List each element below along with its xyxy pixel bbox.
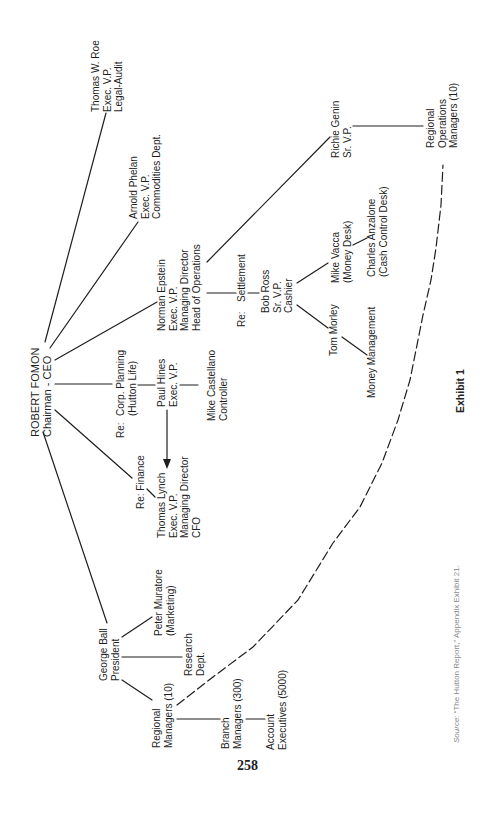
node-research-dept: Research Dept.	[183, 633, 206, 676]
node-name: Charles Anzalone	[366, 186, 378, 277]
node-mike-vacca: Mike Vacca (Money Desk)	[330, 221, 353, 283]
node-arnold-phelan: Arnold Phelan Exec. V.P. Commodities Dep…	[128, 134, 163, 219]
node-label: Re: Finance	[135, 455, 147, 509]
source-text: “The Hutton Report,” Appendix Exhibit 21…	[452, 565, 461, 715]
edge-ceo-epstein	[55, 302, 157, 360]
node-settlement: Settlement	[236, 254, 248, 302]
node-branch-managers: Branch Managers (300)	[220, 678, 243, 749]
node-account-executives: Account Executives (5000)	[265, 670, 288, 750]
edge-ross-vacca	[297, 263, 328, 283]
node-name: Operations	[437, 83, 449, 148]
node-paul-hines: Paul Hines Exec. V.P.	[156, 359, 179, 407]
node-name: Corp. Planning	[115, 350, 127, 416]
node-name: Regional	[151, 683, 163, 748]
node-name: George Ball	[98, 628, 110, 681]
node-thomas-lynch: Thomas Lynch Exec. V.P. Managing Directo…	[156, 456, 202, 538]
edge-ceo-ball	[43, 432, 107, 623]
node-dept: Head of Operations	[191, 244, 203, 331]
node-regional-operations-managers: Regional Operations Managers (10)	[425, 83, 460, 148]
node-count: Executives (5000)	[277, 670, 289, 750]
node-name: Thomas Lynch	[156, 456, 168, 538]
edge-morley-money-mgmt	[342, 337, 367, 355]
node-name: Mike Vacca	[330, 221, 342, 283]
node-count: Managers (300)	[232, 678, 244, 749]
node-charles-anzalone: Charles Anzalone (Cash Control Desk)	[366, 186, 389, 277]
node-prefix: Re:	[236, 311, 248, 327]
node-name: Paul Hines	[156, 359, 168, 407]
node-name: Dept.	[195, 633, 207, 676]
node-settlement-prefix: Re:	[236, 311, 248, 327]
node-dept: Commodities Dept.	[151, 134, 163, 219]
node-regional-managers: Regional Managers (10)	[151, 683, 174, 748]
node-corp-planning: Corp. Planning (Hutton Life)	[115, 350, 138, 416]
node-finance: Re: Finance	[135, 455, 147, 509]
edge-epstein-genin	[207, 137, 330, 262]
node-thomas-roe: Thomas W. Roe Exec. V.P. Legal-Audit	[90, 40, 125, 112]
edge-vacca-anzalone	[353, 238, 367, 245]
node-name: Norman Epstein	[156, 244, 168, 331]
node-name: Settlement	[236, 254, 248, 302]
edge-ceo-phelan	[50, 222, 138, 348]
node-title: Sr. V.P.	[342, 101, 354, 158]
node-title: Exec. V.P.	[168, 359, 180, 407]
node-richie-genin: Richie Genin Sr. V.P.	[330, 101, 353, 158]
node-title: Exec. V.P.	[102, 40, 114, 112]
node-title: Managing Director	[179, 244, 191, 331]
edge-finance-lynch	[147, 489, 155, 497]
node-name: Branch	[220, 678, 232, 749]
org-chart-connectors	[0, 0, 487, 815]
node-name: ROBERT FOMON	[30, 348, 42, 437]
node-name: Research	[183, 633, 195, 676]
node-title: Controller	[218, 350, 230, 421]
node-dept: (Money Desk)	[342, 221, 354, 283]
node-dept: (Marketing)	[165, 569, 177, 636]
node-title: CFO	[191, 456, 203, 538]
node-name: Bob Ross	[260, 270, 272, 313]
node-norman-epstein: Norman Epstein Exec. V.P. Managing Direc…	[156, 244, 202, 331]
node-peter-muratore: Peter Muratore (Marketing)	[153, 569, 176, 636]
source-prefix: Source:	[452, 715, 461, 743]
node-dept: Legal-Audit	[113, 40, 125, 112]
exhibit-label: Exhibit 1	[455, 369, 467, 413]
node-prefix: Re:	[115, 422, 127, 438]
node-count: Managers (10)	[448, 83, 460, 148]
node-name: Money Management	[366, 307, 378, 398]
node-name: Mike Castellano	[206, 350, 218, 421]
edge-ball-muratore	[122, 617, 152, 637]
node-title: Exec. V.P.	[168, 244, 180, 331]
exhibit-label-text: Exhibit 1	[455, 369, 467, 413]
node-name: Thomas W. Roe	[90, 40, 102, 112]
edge-ball-regional-mgrs	[122, 680, 152, 700]
node-name: Peter Muratore	[153, 569, 165, 636]
node-mike-castellano: Mike Castellano Controller	[206, 350, 229, 421]
node-title: Managing Director	[179, 456, 191, 538]
node-corp-planning-prefix: Re:	[115, 422, 127, 438]
node-dept: (Hutton Life)	[127, 350, 139, 416]
edge-regional-mgrs-regional-ops-dashed	[177, 165, 443, 705]
book-page: ROBERT FOMON Chairman - CEO Thomas W. Ro…	[0, 0, 487, 815]
node-dept: (Cash Control Desk)	[378, 186, 390, 277]
node-name: Arnold Phelan	[128, 134, 140, 219]
edge-ceo-finance	[55, 410, 132, 478]
node-title: Cashier	[283, 270, 295, 313]
node-name: Account	[265, 670, 277, 750]
edge-ross-morley	[297, 305, 328, 328]
node-count: Managers (10)	[163, 683, 175, 748]
node-title: Sr. V.P.	[272, 270, 284, 313]
node-title: Exec. V.P.	[140, 134, 152, 219]
node-bob-ross: Bob Ross Sr. V.P. Cashier	[260, 270, 295, 313]
edge-ceo-roe	[45, 113, 106, 342]
node-title: Exec. V.P.	[168, 456, 180, 538]
page-number: 258	[237, 759, 258, 773]
node-george-ball: George Ball President	[98, 628, 121, 681]
source-citation: Source: “The Hutton Report,” Appendix Ex…	[452, 565, 462, 743]
node-title: President	[110, 628, 122, 681]
node-robert-fomon: ROBERT FOMON Chairman - CEO	[30, 348, 53, 437]
node-title: Chairman - CEO	[42, 348, 54, 437]
node-tom-morley: Tom Morley	[328, 304, 340, 356]
node-name: Richie Genin	[330, 101, 342, 158]
node-money-management: Money Management	[366, 307, 378, 398]
node-name: Tom Morley	[328, 304, 340, 356]
node-name: Regional	[425, 83, 437, 148]
